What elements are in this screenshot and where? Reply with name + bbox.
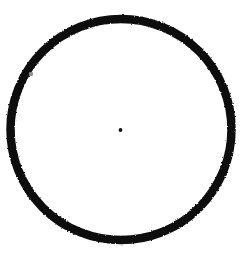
figure-canvas (0, 0, 242, 254)
background (0, 0, 242, 254)
circle-figure (0, 0, 242, 254)
arc-speck (29, 72, 33, 76)
center-dot (119, 128, 123, 132)
